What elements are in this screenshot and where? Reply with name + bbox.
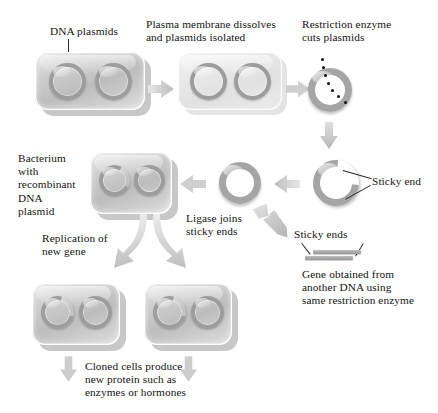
plasmid-ring-open (41, 296, 74, 329)
label-dna-plasmids: DNA plasmids (50, 25, 118, 38)
label-restriction-enzyme: Restriction enzyme cuts plasmids (302, 18, 391, 44)
plasmid-ring (234, 63, 271, 100)
arrow-down-icon (320, 122, 338, 149)
bacterium-cell-intact (35, 52, 145, 110)
label-sticky-ends: Sticky ends (294, 228, 348, 241)
cloned-cell-right (144, 283, 232, 345)
label-cloned-cells: Cloned cells produce new protein such as… (85, 360, 186, 400)
gene-strand-top (313, 250, 361, 254)
plasmid-ring-open (153, 296, 186, 329)
arrow-left-icon (180, 175, 206, 193)
gene-strand-bottom (305, 256, 353, 260)
plasmid-ring (49, 63, 86, 100)
arrow-diagonal-icon (252, 203, 288, 237)
cloned-cell-left (32, 283, 120, 345)
plasmid-ring (191, 296, 224, 329)
label-replication: Replication of new gene (42, 232, 108, 258)
plasmid-ring-open (99, 165, 130, 196)
label-plasma-membrane: Plasma membrane dissolves and plasmids i… (146, 18, 276, 44)
plasmid-ring (79, 296, 112, 329)
label-gene-obtained: Gene obtained from another DNA using sam… (302, 268, 414, 308)
plasmid-being-cut (308, 68, 352, 112)
arrow-right-icon (148, 80, 174, 98)
bacterium-cell-dissolving (178, 52, 282, 110)
gene-fragment (305, 250, 367, 264)
arrow-right-icon (286, 80, 310, 98)
plasmid-ring (95, 63, 132, 100)
diagram-canvas: DNA plasmids Plasma membrane dissolves a… (0, 0, 438, 413)
plasmid-ring (190, 63, 227, 100)
label-bacterium-recombinant: Bacterium with recombinant DNA plasmid (18, 152, 76, 218)
plasmid-ring (134, 165, 165, 196)
plasmid-sticky-ends (313, 160, 359, 206)
arrow-down-icon (60, 356, 77, 382)
label-sticky-end: Sticky end (372, 175, 421, 188)
bacterium-cell-recombinant (90, 152, 172, 214)
cut-dot (321, 58, 324, 61)
arrow-left-icon (274, 175, 300, 193)
plasmid-recombinant (219, 162, 261, 204)
fork-arrow-icon (100, 214, 200, 278)
